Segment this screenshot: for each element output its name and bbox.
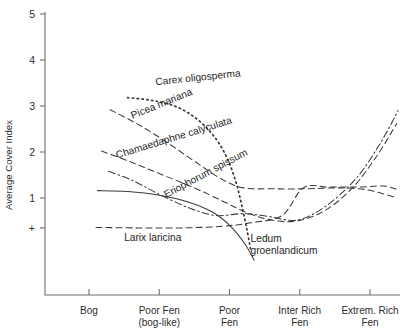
x-tick-label: Poor Fen <box>139 305 180 316</box>
x-tick-label-line2: Fen <box>361 317 378 328</box>
series-labels: Carex oligospermaPicea marianaChamaedaph… <box>114 67 317 255</box>
series-label: Ledum <box>251 233 282 244</box>
series-label-line2: groenlandicum <box>251 245 318 256</box>
series-label: Carex oligosperma <box>155 67 242 87</box>
x-tick-labels: BogPoor Fen(bog-like)PoorFenInter RichFe… <box>80 305 399 328</box>
x-tick-label: Poor <box>219 305 241 316</box>
series-label: Eriophorum spissum <box>162 146 249 199</box>
x-tick-label-line2: Fen <box>221 317 238 328</box>
x-tick-label: Inter Rich <box>278 305 321 316</box>
y-tick-label: 2 <box>29 146 35 158</box>
y-tick-labels: +12345 <box>29 8 35 234</box>
y-axis-title-text: Average Cover Index <box>3 120 14 210</box>
x-tick-label-line2: (bog-like) <box>138 317 180 328</box>
series-curve <box>110 110 395 197</box>
y-tick-label: 5 <box>29 8 35 20</box>
x-tick-label-line2: Fen <box>291 317 308 328</box>
series-label: Larix laricina <box>124 232 182 243</box>
y-tick-label: 4 <box>29 54 35 66</box>
chart-plot-area: +12345 BogPoor Fen(bog-like)PoorFenInter… <box>0 0 410 328</box>
series-curve <box>96 186 398 228</box>
y-axis-title: Average Cover Index <box>3 120 14 210</box>
series-curve <box>109 111 398 221</box>
y-tick-label: 3 <box>29 100 35 112</box>
x-tick-label: Bog <box>80 305 98 316</box>
series-curve <box>102 123 397 221</box>
y-tick-label: + <box>29 222 35 234</box>
y-tick-label: 1 <box>29 192 35 204</box>
series-curve <box>128 98 251 250</box>
chart-figure: +12345 BogPoor Fen(bog-like)PoorFenInter… <box>0 0 410 328</box>
series-label-group: Ledumgroenlandicum <box>251 233 318 256</box>
axis-lines <box>45 12 400 295</box>
axes <box>40 12 400 295</box>
x-tick-label: Extrem. Rich <box>341 305 398 316</box>
series-label: Picea mariana <box>129 86 194 121</box>
